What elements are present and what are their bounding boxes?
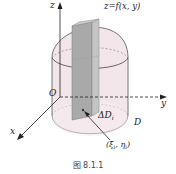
double-integral-diagram: z z=f(x, y) y x O D ΔDi (ξi, ηi) 图 8.1.1 (0, 0, 176, 174)
region-label: D (133, 117, 141, 127)
point-label: (ξi, ηi) (106, 140, 130, 150)
element-label: ΔDi (97, 110, 114, 121)
sample-point (82, 109, 84, 111)
z-axis-label: z (49, 0, 55, 10)
surface-label: z=f(x, y) (103, 1, 140, 11)
origin-label: O (49, 88, 57, 98)
z-axis-arrow (58, 2, 63, 9)
figure-caption: 图 8.1.1 (73, 161, 104, 170)
column-side (92, 19, 99, 116)
y-axis-label: y (160, 98, 167, 108)
column-front (72, 22, 92, 120)
x-axis-label: x (10, 126, 15, 136)
